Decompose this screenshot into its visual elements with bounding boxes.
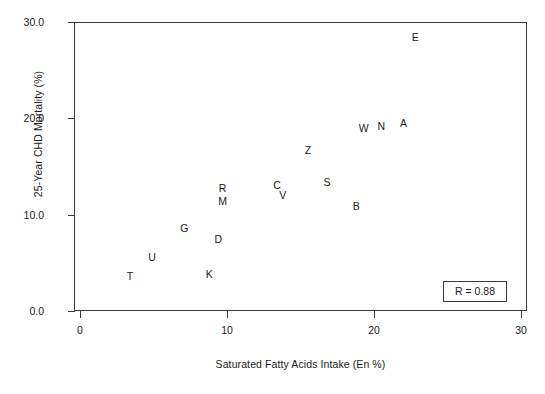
data-point-w: W [355,123,373,134]
y-tick-mark [68,215,75,216]
data-point-a: A [394,118,412,129]
x-tick-mark [227,311,228,318]
data-point-b: B [347,201,365,212]
data-point-t: T [121,271,139,282]
y-tick-label: 20.0 [4,113,44,124]
y-tick-mark [68,22,75,23]
data-point-n: N [372,121,390,132]
data-point-s: S [318,177,336,188]
x-tick-label: 10 [207,325,247,336]
data-point-v: V [274,190,292,201]
data-point-e: E [406,32,424,43]
correlation-annotation: R = 0.88 [443,281,507,302]
y-tick-label: 0.0 [4,306,44,317]
y-tick-label: 30.0 [4,17,44,28]
data-point-z: Z [299,145,317,156]
x-tick-label: 20 [354,325,394,336]
scatter-plot-figure: 25-Year CHD Mortality (%) Saturated Fatt… [0,0,545,394]
x-axis-title: Saturated Fatty Acids Intake (En %) [74,358,527,370]
x-tick-label: 30 [501,325,541,336]
data-point-u: U [143,252,161,263]
data-point-m: M [214,196,232,207]
data-point-k: K [200,269,218,280]
plot-area-frame [74,22,527,311]
data-point-d: D [209,234,227,245]
y-tick-mark [68,118,75,119]
x-tick-mark [521,311,522,318]
x-tick-label: 0 [60,325,100,336]
x-tick-mark [80,311,81,318]
x-tick-mark [374,311,375,318]
y-tick-label: 10.0 [4,210,44,221]
data-point-g: G [175,223,193,234]
y-tick-mark [68,311,75,312]
data-point-r: R [214,183,232,194]
